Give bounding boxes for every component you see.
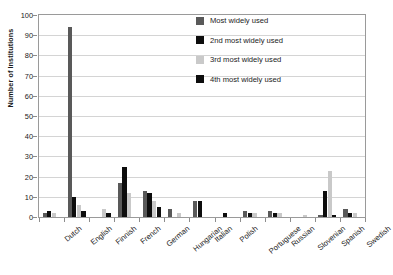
chart-legend: Most widely used2nd most widely used3rd … <box>196 16 283 84</box>
bar <box>198 201 202 217</box>
bar <box>277 213 281 217</box>
bar-group <box>89 15 114 217</box>
legend-swatch-icon <box>196 56 204 64</box>
y-axis-tick-mark <box>32 55 37 56</box>
y-axis-tick-label: 20 <box>9 172 33 181</box>
x-axis-tick-mark <box>89 218 90 222</box>
bar <box>303 215 307 217</box>
y-axis-tick-label: 0 <box>9 213 33 222</box>
bar <box>72 197 76 217</box>
bar-group <box>164 15 189 217</box>
bar <box>323 191 327 217</box>
y-axis-tick-label: 90 <box>9 31 33 40</box>
legend-item: 4th most widely used <box>196 75 283 84</box>
y-axis-tick-mark <box>32 197 37 198</box>
bar <box>268 211 272 217</box>
x-axis-tick-label: Dutch <box>62 224 83 244</box>
y-axis-tick-label: 10 <box>9 192 33 201</box>
legend-label: 4th most widely used <box>210 75 281 84</box>
bar-group <box>64 15 89 217</box>
bar <box>328 171 332 217</box>
bar <box>147 193 151 217</box>
bar <box>43 213 47 217</box>
y-axis-tick-mark <box>32 217 37 218</box>
y-axis-tick-mark <box>32 177 37 178</box>
x-axis-tick-label: French <box>138 224 162 246</box>
bar <box>77 205 81 217</box>
bar <box>343 209 347 217</box>
y-axis-tick-label: 30 <box>9 152 33 161</box>
x-axis-tick-label: German <box>164 224 191 249</box>
bar <box>122 167 126 218</box>
x-axis-tick-label: Finnish <box>113 224 138 247</box>
legend-item: 2nd most widely used <box>196 36 283 45</box>
y-axis-tick-mark <box>32 116 37 117</box>
bar <box>223 213 227 217</box>
legend-item: Most widely used <box>196 16 283 25</box>
bar <box>177 213 181 217</box>
y-axis-tick-label: 100 <box>9 11 33 20</box>
x-axis-tick-mark <box>189 218 190 222</box>
x-axis-tick-mark <box>64 218 65 222</box>
bar <box>348 213 352 217</box>
x-axis-tick-mark <box>265 218 266 222</box>
x-axis-tick-mark <box>365 218 366 222</box>
bar-group <box>139 15 164 217</box>
bar <box>81 211 85 217</box>
bar <box>332 215 336 217</box>
x-axis-tick-label: English <box>88 224 113 247</box>
x-axis-tick-mark <box>340 218 341 222</box>
x-axis-tick-label: Polish <box>238 224 260 244</box>
legend-swatch-icon <box>196 75 204 83</box>
bar-group <box>114 15 139 217</box>
bar-group <box>290 15 315 217</box>
bar-group <box>340 15 365 217</box>
x-axis-tick-label: Swedish <box>365 224 393 249</box>
y-axis-tick-label: 80 <box>9 51 33 60</box>
bar-group <box>39 15 64 217</box>
x-axis-tick-mark <box>139 218 140 222</box>
bar <box>127 193 131 217</box>
legend-label: 2nd most widely used <box>210 36 283 45</box>
y-axis-tick-mark <box>32 15 37 16</box>
y-axis-tick-mark <box>32 76 37 77</box>
legend-swatch-icon <box>196 36 204 44</box>
x-axis-tick-mark <box>315 218 316 222</box>
y-axis-tick-label: 50 <box>9 112 33 121</box>
bar <box>68 27 72 217</box>
bar <box>273 213 277 217</box>
x-axis-tick-mark <box>114 218 115 222</box>
legend-swatch-icon <box>196 17 204 25</box>
x-axis-tick-mark <box>39 218 40 222</box>
bar <box>353 213 357 217</box>
x-axis-tick-mark <box>215 218 216 222</box>
bar <box>168 209 172 217</box>
bar <box>318 215 322 217</box>
y-axis-tick-label: 60 <box>9 91 33 100</box>
y-axis-tick-mark <box>32 156 37 157</box>
bar <box>157 207 161 217</box>
bar <box>252 213 256 217</box>
y-axis-title: Number of Institutions <box>6 8 22 128</box>
x-axis-tick-mark <box>290 218 291 222</box>
bar <box>52 213 56 217</box>
legend-item: 3rd most widely used <box>196 55 283 64</box>
y-axis-tick-mark <box>32 35 37 36</box>
bar <box>193 201 197 217</box>
bar <box>102 209 106 217</box>
bar <box>106 213 110 217</box>
bar <box>243 211 247 217</box>
bar <box>152 201 156 217</box>
bar <box>143 191 147 217</box>
legend-label: 3rd most widely used <box>210 55 281 64</box>
legend-label: Most widely used <box>210 16 268 25</box>
y-axis-tick-mark <box>32 96 37 97</box>
bar <box>118 183 122 217</box>
bar-group <box>315 15 340 217</box>
x-axis-tick-mark <box>240 218 241 222</box>
bar <box>47 211 51 217</box>
x-axis-tick-mark <box>164 218 165 222</box>
y-axis-tick-mark <box>32 136 37 137</box>
bar <box>248 213 252 217</box>
